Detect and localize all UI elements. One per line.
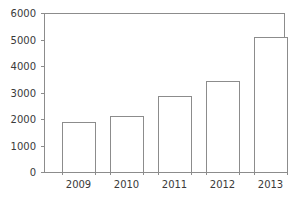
x-tick-label: 2011 xyxy=(162,179,187,190)
y-tick-label: 5000 xyxy=(11,35,36,46)
bar xyxy=(207,82,240,173)
x-tick-label: 2012 xyxy=(210,179,235,190)
y-tick-label: 0 xyxy=(30,167,36,178)
bar xyxy=(111,117,144,173)
chart-canvas: 0100020003000400050006000 20092010201120… xyxy=(0,0,297,203)
y-tick-label: 4000 xyxy=(11,61,36,72)
y-tick-label: 2000 xyxy=(11,114,36,125)
x-tick-label: 2010 xyxy=(114,179,139,190)
x-tick-label: 2013 xyxy=(258,179,283,190)
y-tick-label: 1000 xyxy=(11,141,36,152)
bar xyxy=(255,38,288,173)
x-tick-label: 2009 xyxy=(66,179,91,190)
y-tick-label: 3000 xyxy=(11,88,36,99)
bar-chart: 0100020003000400050006000 20092010201120… xyxy=(0,0,297,203)
bar xyxy=(63,123,96,173)
bar xyxy=(159,97,192,173)
y-tick-label: 6000 xyxy=(11,8,36,19)
